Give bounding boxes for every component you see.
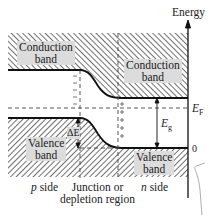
energy-axis-label: Energy: [172, 6, 205, 18]
delta-e-label: ΔE: [67, 127, 80, 139]
conduction-band-left-label: Conduction band: [17, 41, 75, 65]
page-curl-decoration: [195, 166, 202, 215]
valence-band-left-label: Valence band: [26, 137, 66, 161]
positive-charges: [120, 102, 124, 138]
p-side-label: p side: [31, 181, 58, 193]
negative-charges: [73, 76, 77, 104]
junction-label: Junction or depletion region: [60, 181, 135, 205]
conduction-band-right-label: Conduction band: [124, 59, 182, 83]
n-side-label: n side: [141, 181, 168, 193]
valence-band-right-label: Valence band: [134, 151, 174, 175]
gap-label: Eg: [161, 117, 172, 134]
fermi-level-label: EF: [192, 102, 203, 119]
gap-arrow: [155, 98, 159, 148]
zero-label: 0: [192, 143, 197, 155]
